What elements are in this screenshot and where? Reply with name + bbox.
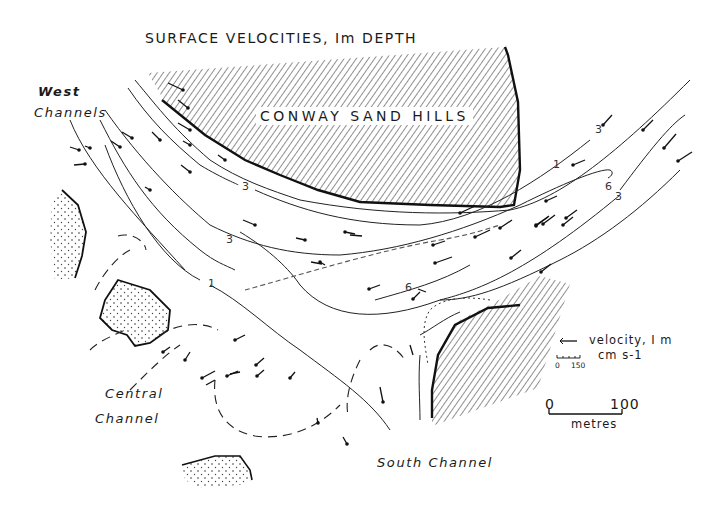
contour-label-6b: 6 bbox=[405, 282, 412, 293]
contour-label-3d: 3 bbox=[615, 191, 622, 202]
label-central-channel-line2: Channel bbox=[95, 412, 160, 425]
contour-label-1b: 1 bbox=[553, 159, 560, 170]
contour-label-3a: 3 bbox=[242, 181, 249, 192]
contour-label-6a: 6 bbox=[605, 181, 612, 192]
legend-velocity-label: velocity, I m bbox=[589, 335, 673, 347]
legend-distance-units: metres bbox=[571, 419, 617, 431]
dotted-sand-bar-central bbox=[100, 280, 170, 346]
label-conway-sand-hills: CONWAY SAND HILLS bbox=[256, 107, 473, 125]
legend-velocity-scale-min: 0 bbox=[555, 362, 560, 370]
label-south-channel: South Channel bbox=[377, 456, 493, 469]
legend-velocity-units: cm s-1 bbox=[598, 350, 643, 362]
contour-label-3b: 3 bbox=[226, 234, 233, 245]
label-west-channels-line1: West bbox=[38, 85, 81, 98]
legend-distance-min: 0 bbox=[545, 397, 555, 411]
velocity-scale-bar bbox=[557, 355, 580, 358]
dotted-sand-bar-south bbox=[182, 456, 252, 488]
label-central-channel-line1: Central bbox=[105, 387, 164, 400]
legend-velocity-scale-max: 150 bbox=[571, 362, 585, 370]
label-west-channels-line2: Channels bbox=[34, 106, 107, 119]
contour-label-3c: 3 bbox=[595, 124, 602, 135]
legend-distance-max: 100 bbox=[610, 397, 640, 411]
conway-sand-hills-area bbox=[148, 47, 520, 207]
dotted-sand-bar-west bbox=[50, 190, 86, 280]
figure-title: SURFACE VELOCITIES, Im DEPTH bbox=[145, 31, 417, 45]
contour-label-1a: 1 bbox=[208, 278, 215, 289]
